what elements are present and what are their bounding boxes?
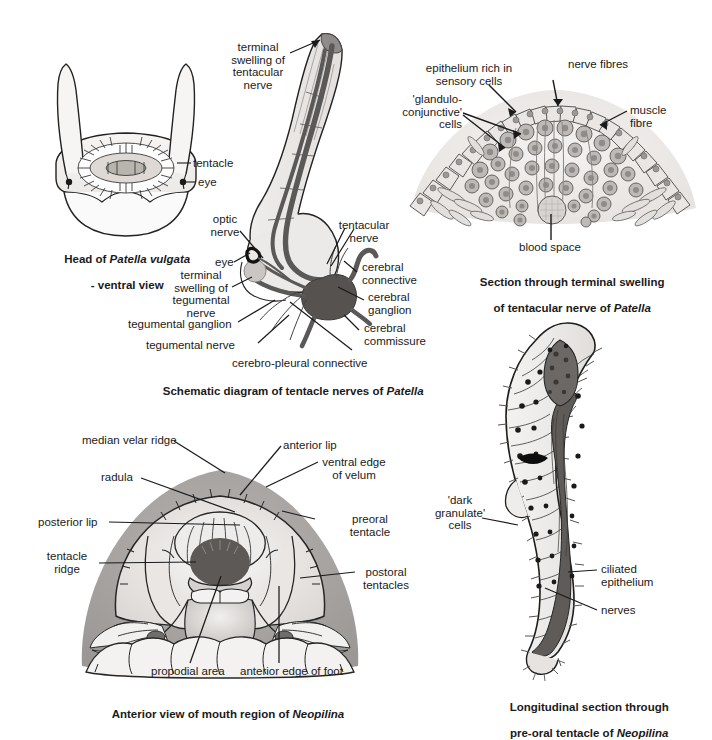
figure-head-patella-ventral (22, 40, 232, 240)
figure-longitudinal-section-preoral-tentacle (478, 310, 648, 678)
label-preoral-tentacle: preoral tentacle (344, 513, 396, 538)
head-patella-drawing (22, 40, 232, 240)
caption-longitudinal-section: Longitudinal section through pre-oral te… (460, 688, 712, 740)
label-postoral-tentacles: postoral tentacles (357, 566, 415, 591)
label-ciliated-epithelium: ciliated epithelium (601, 563, 653, 588)
label-posterior-lip: posterior lip (38, 516, 97, 529)
label-cerebral-connective: cerebral connective (362, 261, 417, 286)
caption-line1: Longitudinal section through (510, 701, 669, 713)
caption-schematic-tentacle-nerves: Schematic diagram of tentacle nerves of … (155, 372, 425, 398)
label-dark-granulate-cells: 'dark granulate' cells (432, 494, 488, 532)
preoral-tentacle-drawing (478, 310, 648, 678)
label-median-velar-ridge: median velar ridge (82, 434, 177, 447)
caption-line1: Head of Patella vulgata (64, 253, 190, 265)
label-epithelium-rich-in-sensory-cells: epithelium rich in sensory cells (414, 62, 524, 87)
label-glandulo-conjunctive-cells: 'glandulo- conjunctive' cells (390, 93, 462, 131)
caption-section-terminal-swelling: Section through terminal swelling of ten… (444, 263, 694, 315)
label-blood-space: blood space (519, 241, 581, 254)
label-propodial-area: propodial area (151, 665, 225, 678)
caption-line2: - ventral view (91, 279, 164, 291)
caption-line2: pre-oral tentacle of Neopilina (510, 727, 668, 739)
label-eye-schematic: eye (215, 256, 234, 269)
label-terminal-swelling-tentacular-nerve: terminal swelling of tentacular nerve (225, 41, 291, 91)
caption-line1: Section through terminal swelling (480, 276, 665, 288)
label-tentacular-nerve: tentacular nerve (336, 219, 392, 244)
label-cerebral-ganglion: cerebral ganglion (368, 291, 411, 316)
label-tentacle-ridge: tentacle ridge (38, 550, 96, 575)
label-anterior-lip: anterior lip (283, 439, 337, 452)
label-nerves: nerves (601, 604, 636, 617)
label-radula: radula (101, 471, 133, 484)
label-cerebral-commissure: cerebral commissure (364, 322, 426, 347)
label-cerebro-pleural-connective: cerebro-pleural connective (232, 357, 368, 370)
label-ventral-edge-of-velum: ventral edge of velum (318, 456, 390, 481)
label-nerve-fibres: nerve fibres (568, 58, 628, 71)
label-anterior-edge-of-foot: anterior edge of foot (240, 665, 343, 678)
label-optic-nerve: optic nerve (206, 213, 244, 238)
caption-anterior-mouth-neopilina: Anterior view of mouth region of Neopili… (60, 695, 390, 721)
label-muscle-fibre: muscle fibre (630, 104, 666, 129)
label-tegumental-ganglion: tegumental ganglion (128, 318, 232, 331)
label-tegumental-nerve: tegumental nerve (146, 339, 235, 352)
label-terminal-swelling-tegumental-nerve: terminal swelling of tegumental nerve (166, 269, 236, 319)
